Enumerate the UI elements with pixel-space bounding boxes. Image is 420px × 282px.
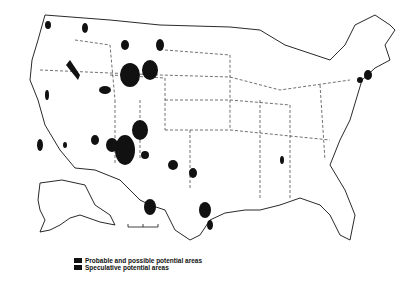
legend-item-probable: Probable and possible potential areas — [74, 257, 202, 264]
legend-label: Speculative potential areas — [85, 264, 169, 271]
legend-label: Probable and possible potential areas — [85, 257, 202, 264]
us-map — [0, 0, 420, 250]
probable-area-swatch-icon — [74, 258, 82, 263]
alaska-outline — [38, 180, 115, 232]
legend: Probable and possible potential areas Sp… — [74, 257, 202, 271]
us-outline — [30, 15, 395, 240]
speculative-area-swatch-icon — [74, 265, 82, 270]
legend-item-speculative: Speculative potential areas — [74, 264, 202, 271]
potential-areas — [37, 21, 372, 230]
scale-bar — [128, 224, 158, 227]
